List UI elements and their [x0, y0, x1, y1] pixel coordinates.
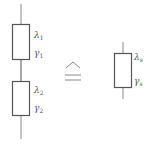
- corresponds-to-icon: [65, 62, 81, 80]
- block-2-gamma-label: γ2: [34, 103, 43, 114]
- block-1-rate-label: λ1: [33, 30, 44, 41]
- block-2-rate-label: λ2: [33, 85, 44, 96]
- equivalent-gamma-label: γs: [134, 76, 142, 87]
- equivalent-rate-label: λs: [133, 52, 143, 63]
- reliability-diagram: λ1 γ1 λ2 γ2 λs γs: [0, 0, 146, 146]
- block-2: [13, 82, 30, 116]
- equivalent-block: [115, 54, 132, 88]
- block-1-gamma-label: γ1: [34, 48, 43, 59]
- block-1: [13, 25, 30, 60]
